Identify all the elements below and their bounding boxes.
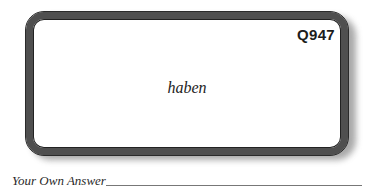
answer-input-line[interactable] (106, 185, 362, 186)
card-term: haben (33, 79, 341, 97)
card-id: Q947 (297, 26, 335, 43)
answer-row: Your Own Answer (12, 172, 362, 188)
answer-label: Your Own Answer (12, 174, 106, 188)
flashcard: Q947 haben (26, 12, 348, 155)
